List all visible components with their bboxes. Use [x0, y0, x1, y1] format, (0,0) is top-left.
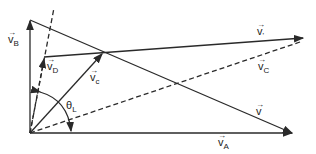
label-vc: →vc: [90, 72, 100, 86]
label-vD: →vD: [47, 61, 58, 75]
vector-diagram: [0, 0, 316, 154]
label-vB: →vB: [8, 34, 19, 48]
label-theta-L: θL: [66, 100, 77, 114]
label-vA: →vA: [218, 137, 229, 151]
label-vC: →vC: [258, 61, 269, 75]
label-v: →v: [256, 106, 262, 117]
vector-v: [30, 20, 292, 133]
label-vprime: →v': [257, 26, 264, 40]
